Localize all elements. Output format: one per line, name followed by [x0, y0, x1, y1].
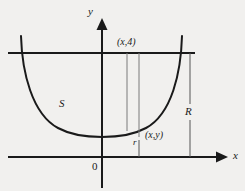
x-axis — [8, 152, 228, 163]
outer-radius-label-r: R — [185, 106, 192, 117]
math-figure-parabola-shell-diagram: y x 0 S R r (x,4) (x,y) — [0, 0, 245, 191]
diagram-canvas — [0, 0, 245, 191]
curve-point-label: (x,y) — [145, 130, 163, 140]
x-axis-arrowhead-icon — [216, 152, 228, 163]
region-label-s: S — [59, 98, 65, 109]
y-axis-arrowhead-icon — [97, 18, 108, 30]
x-axis-label: x — [233, 150, 238, 161]
y-axis-label: y — [88, 6, 93, 17]
upper-point-label: (x,4) — [117, 37, 136, 47]
y-axis — [97, 18, 108, 188]
inner-radius-label-r: r — [133, 138, 137, 147]
origin-label: 0 — [92, 161, 98, 172]
